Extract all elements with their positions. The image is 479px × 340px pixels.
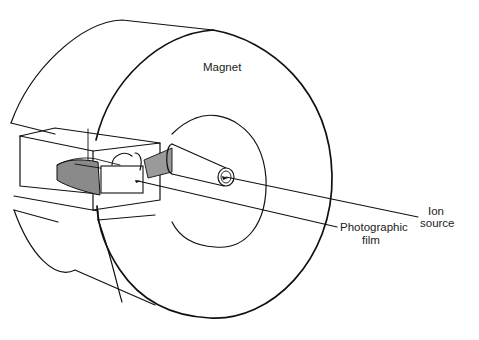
ion-source-label-line1: Ion — [428, 205, 444, 217]
magnet-label: Magnet — [203, 61, 242, 73]
photographic-film-holder — [101, 166, 143, 193]
photographic-film-label-line1: Photographic — [340, 221, 408, 233]
photographic-film-label-line2: film — [362, 234, 380, 246]
mass-spectrograph-diagram: Magnet Photographic film Ion source — [0, 0, 479, 340]
label-leaders — [135, 176, 418, 227]
ion-source-label-line2: source — [420, 217, 455, 229]
